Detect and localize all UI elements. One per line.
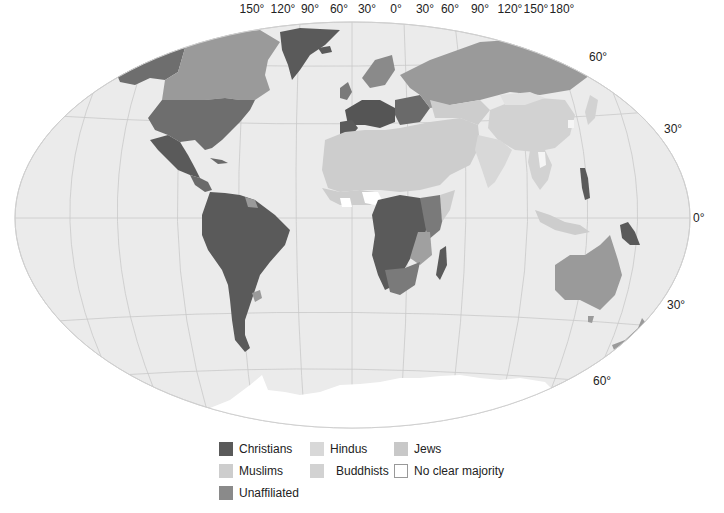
longitude-labels: 150° 120° 90° 60° 30° 0° 30° 60° 90° 120…: [0, 2, 724, 18]
lat-label-30n: 30°: [664, 122, 682, 136]
korea: [568, 120, 574, 128]
lat-label-60n: 60°: [589, 50, 607, 64]
legend-item-christians: Christians: [219, 440, 292, 458]
legend-item-muslims: Muslims: [219, 462, 283, 480]
legend-label: No clear majority: [414, 464, 504, 478]
unaffiliated-swatch: [219, 486, 233, 500]
antarctica: [200, 375, 560, 428]
muslims-swatch: [219, 464, 233, 478]
hindus-swatch: [310, 442, 324, 456]
buddhists-swatch: [310, 464, 324, 478]
lat-label-0: 0°: [693, 211, 704, 225]
legend-item-jews: Jews: [394, 440, 441, 458]
lon-label: 180°: [550, 2, 575, 16]
world-religion-map: [0, 0, 724, 513]
legend-item-no-clear-majority: No clear majority: [394, 462, 504, 480]
lon-label: 120°: [498, 2, 523, 16]
lat-label-60s: 60°: [593, 374, 611, 388]
legend-label: Hindus: [330, 442, 367, 456]
ivory-coast-no-majority: [340, 198, 352, 207]
lon-label: 0°: [390, 2, 401, 16]
lon-label: 60°: [330, 2, 348, 16]
legend-item-unaffiliated: Unaffiliated: [219, 484, 299, 502]
lon-label: 120°: [271, 2, 296, 16]
legend-item-hindus: Hindus: [310, 440, 367, 458]
lon-label: 150°: [524, 2, 549, 16]
legend-label: Christians: [239, 442, 292, 456]
christians-swatch: [219, 442, 233, 456]
legend-label: Unaffiliated: [239, 486, 299, 500]
no-majority-swatch: [394, 464, 408, 478]
lat-label-30s: 30°: [667, 298, 685, 312]
legend: Christians Hindus Jews Muslims Buddhists…: [219, 440, 519, 510]
lon-label: 90°: [471, 2, 489, 16]
legend-label: Muslims: [239, 464, 283, 478]
lon-label: 150°: [240, 2, 265, 16]
lon-label: 30°: [358, 2, 376, 16]
lon-label: 60°: [441, 2, 459, 16]
lon-label: 30°: [416, 2, 434, 16]
legend-item-buddhists: Buddhists: [310, 462, 389, 480]
jews-swatch: [394, 442, 408, 456]
legend-label: Buddhists: [336, 464, 389, 478]
legend-label: Jews: [414, 442, 441, 456]
lon-label: 90°: [301, 2, 319, 16]
